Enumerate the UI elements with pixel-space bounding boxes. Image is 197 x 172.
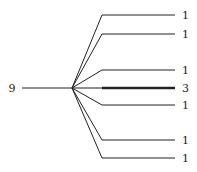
branch: 1 xyxy=(72,88,189,165)
branch: 1 xyxy=(72,88,189,147)
branch-diagonal-line xyxy=(72,88,102,140)
branch-label: 3 xyxy=(182,82,189,95)
branch: 1 xyxy=(72,88,189,112)
fan-tree-diagram: 9 1113111 xyxy=(0,0,197,172)
branch-label: 1 xyxy=(182,64,189,77)
branch-label: 1 xyxy=(182,152,189,165)
branch-label: 1 xyxy=(182,9,189,22)
branch: 1 xyxy=(72,9,189,89)
branch: 1 xyxy=(72,64,189,89)
branch-label: 1 xyxy=(182,99,189,112)
root-label: 9 xyxy=(9,82,16,95)
branch: 3 xyxy=(72,82,189,95)
branch-diagonal-line xyxy=(72,88,102,158)
branch-diagonal-line xyxy=(72,15,102,88)
branch: 1 xyxy=(72,28,189,89)
branch-label: 1 xyxy=(182,134,189,147)
branch-group: 1113111 xyxy=(72,9,189,165)
branch-diagonal-line xyxy=(72,34,102,88)
branch-label: 1 xyxy=(182,28,189,41)
